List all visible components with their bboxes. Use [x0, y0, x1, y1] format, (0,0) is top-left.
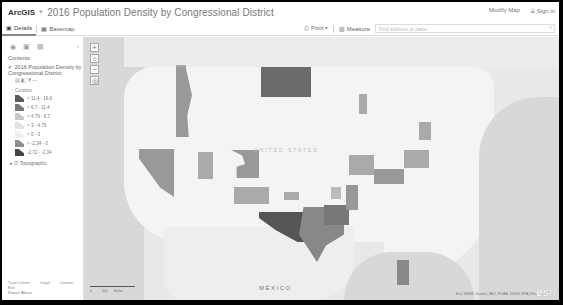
- more-icon[interactable]: ⋯: [32, 77, 38, 83]
- scale-bar: 0 300 600mi: [90, 286, 135, 293]
- district-missouri[interactable]: [349, 155, 374, 175]
- layer-name: 2016 Population Density by Congressional…: [8, 64, 82, 76]
- collapse-sidebar-icon[interactable]: ‹: [77, 43, 79, 49]
- content-icon[interactable]: ▣: [23, 43, 30, 51]
- legend-label: > 3 - 4.79: [27, 123, 46, 128]
- district-alabama[interactable]: [346, 185, 358, 210]
- legend-swatch: [15, 131, 24, 138]
- legend-swatch: [15, 149, 24, 156]
- legend-label: > 4.79 - 6.7: [27, 114, 50, 119]
- search-placeholder: Find address or place: [379, 26, 427, 32]
- details-icon: ▣: [6, 24, 12, 31]
- legal-link[interactable]: Legal: [40, 280, 50, 285]
- tab-label: Basemap: [49, 26, 74, 32]
- legend-icon[interactable]: ▤: [37, 43, 44, 51]
- app-window: ArcGIS ▾ 2016 Population Density by Cong…: [2, 2, 559, 300]
- district-utah[interactable]: [198, 152, 213, 179]
- tab-details[interactable]: ▣ Details: [2, 22, 36, 36]
- district-new-mexico[interactable]: [234, 187, 269, 204]
- district-mississippi[interactable]: [331, 187, 341, 199]
- legend-swatch: [15, 104, 24, 111]
- modify-map-link[interactable]: Modify Map: [489, 7, 520, 14]
- zoom-controls: + ⌂ − ◎: [90, 43, 99, 85]
- measure-button[interactable]: ▥ Measure: [339, 25, 370, 32]
- scale-label: 600mi: [113, 289, 123, 293]
- header: ArcGIS ▾ 2016 Population Density by Cong…: [2, 2, 559, 22]
- legend-swatch: [15, 122, 24, 129]
- legend-title: Custom: [2, 84, 83, 93]
- home-button[interactable]: ⌂: [90, 54, 99, 63]
- print-button[interactable]: ⎙ Print ▾: [304, 25, 328, 32]
- legend-swatch: [15, 95, 24, 102]
- legend-swatch: [15, 113, 24, 120]
- country-label-mexico: MÉXICO: [259, 285, 292, 291]
- printer-icon: ⎙: [304, 25, 311, 31]
- sub-toolbar: ▣ Details ▦ Basemap ⎙ Print ▾ ▥ Measure …: [2, 22, 559, 36]
- legend-label: > -2.34 - 0: [27, 141, 48, 146]
- district-virginia[interactable]: [419, 122, 431, 140]
- zoom-in-button[interactable]: +: [90, 43, 99, 52]
- print-label: Print: [311, 25, 323, 31]
- search-icon[interactable]: ⌕: [549, 24, 552, 31]
- tab-basemap[interactable]: ▦ Basemap: [37, 22, 78, 36]
- legend-item: -2.72 - -2.34: [15, 148, 83, 157]
- scale-label: 300: [102, 289, 108, 293]
- legend-item: > 6.7 - 11.4: [15, 103, 83, 112]
- legend-label: > 6.7 - 11.4: [27, 105, 50, 110]
- layer-item[interactable]: ✔ 2016 Population Density by Congression…: [2, 61, 83, 76]
- sign-in-link[interactable]: ♙ Sign in: [530, 7, 555, 14]
- legend-item: > 4.79 - 6.7: [15, 112, 83, 121]
- arcgis-logo[interactable]: ArcGIS: [8, 8, 35, 17]
- legend: > 11.4 - 16.6 > 6.7 - 11.4 > 4.79 - 6.7 …: [2, 93, 83, 157]
- sidebar-footer: Trust CenterLegalContact Esri Report Abu…: [8, 280, 83, 295]
- legend-label: > 0 - 3: [27, 132, 40, 137]
- user-icon: ♙: [530, 8, 537, 14]
- legend-label: > 11.4 - 16.6: [27, 96, 52, 101]
- layer-tools: ▤◧⧩⋯: [2, 76, 83, 84]
- ruler-icon: ▥: [339, 26, 347, 32]
- district-carolina[interactable]: [404, 150, 429, 168]
- report-abuse-link[interactable]: Report Abuse: [8, 290, 32, 295]
- divider: [333, 25, 334, 33]
- legend-swatch: [15, 140, 24, 147]
- canada: [124, 37, 559, 67]
- measure-label: Measure: [347, 26, 370, 32]
- district-oklahoma[interactable]: [284, 192, 299, 200]
- district-florida[interactable]: [397, 260, 409, 285]
- map-view[interactable]: UNITED STATES MÉXICO + ⌂ − ◎ 0 300 600mi…: [84, 37, 559, 300]
- map-title: 2016 Population Density by Congressional…: [47, 7, 274, 18]
- legend-label: -2.72 - -2.34: [27, 150, 52, 155]
- scale-line: [90, 286, 135, 288]
- zoom-out-button[interactable]: −: [90, 65, 99, 74]
- legend-item: > 3 - 4.79: [15, 121, 83, 130]
- tab-label: Details: [14, 25, 32, 31]
- basemap-layer-item[interactable]: ▸ ☑ Topographic: [2, 157, 83, 166]
- brand-text: ArcGIS: [8, 8, 35, 17]
- attribution: Esri, HERE, Garmin, FAO, NOAA, USGS, EPA…: [456, 292, 537, 296]
- search-input[interactable]: Find address or place ⌕: [375, 24, 555, 33]
- scale-label: 0: [90, 289, 92, 293]
- basemap-icon: ▦: [41, 25, 47, 32]
- sign-in-label: Sign in: [537, 8, 555, 14]
- legend-item: > -2.34 - 0: [15, 139, 83, 148]
- legend-item: > 0 - 3: [15, 130, 83, 139]
- chevron-down-icon[interactable]: ▾: [39, 8, 43, 16]
- sidebar: ◉ ▣ ▤ ‹ Contents ✔ 2016 Population Densi…: [2, 37, 84, 300]
- esri-logo: esri: [536, 286, 556, 298]
- district-illinois[interactable]: [359, 94, 367, 114]
- about-icon[interactable]: ◉: [10, 43, 16, 51]
- country-label-us: UNITED STATES: [254, 147, 319, 153]
- atlantic-ocean: [479, 97, 559, 300]
- basemap-layer-name: Topographic: [20, 160, 47, 166]
- legend-item: > 11.4 - 16.6: [15, 94, 83, 103]
- contents-heading: Contents: [2, 51, 83, 61]
- locate-button[interactable]: ◎: [90, 76, 99, 85]
- district-north-dakota[interactable]: [261, 67, 311, 97]
- district-georgia[interactable]: [374, 169, 404, 184]
